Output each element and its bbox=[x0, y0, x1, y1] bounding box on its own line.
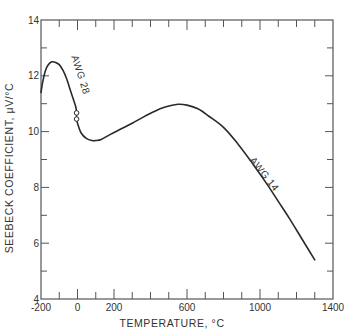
y-tick-label: 6 bbox=[33, 238, 39, 249]
y-tick-label: 4 bbox=[33, 294, 39, 305]
plot-border bbox=[41, 20, 333, 299]
annotation-awg-28: AWG 28 bbox=[69, 54, 92, 96]
y-tick-label: 14 bbox=[28, 15, 40, 26]
series-line-awg-28 bbox=[41, 62, 77, 112]
x-tick-label: 0 bbox=[75, 302, 81, 313]
open-circle-marker bbox=[74, 117, 79, 122]
x-tick-label: 1400 bbox=[322, 302, 345, 313]
y-axis-label: SEEBECK COEFFICIENT, μV/°C bbox=[3, 83, 15, 254]
axes-frame bbox=[41, 20, 333, 299]
open-circle-marker bbox=[74, 111, 79, 116]
x-tick-label: 600 bbox=[179, 302, 196, 313]
y-tick-label: 10 bbox=[28, 126, 40, 137]
chart-canvas: -200020060010001400 468101214 AWG 28AWG … bbox=[0, 0, 358, 336]
annotation-layer: AWG 28AWG 14 bbox=[69, 54, 281, 194]
y-tick-label: 8 bbox=[33, 182, 39, 193]
y-tick-label: 12 bbox=[28, 70, 40, 81]
x-axis-label: TEMPERATURE, °C bbox=[119, 317, 224, 329]
x-tick-label: 200 bbox=[106, 302, 123, 313]
annotation-awg-14: AWG 14 bbox=[248, 155, 282, 194]
seebeck-chart: -200020060010001400 468101214 AWG 28AWG … bbox=[0, 0, 358, 336]
x-tick-label: 1000 bbox=[249, 302, 272, 313]
